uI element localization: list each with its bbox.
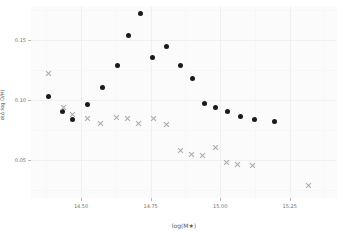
data-point-cross [60, 104, 67, 111]
gridline-major-horizontal [31, 100, 337, 101]
gridline-minor-vertical [185, 6, 186, 198]
data-point-circle [85, 102, 90, 107]
gridline-minor-vertical [255, 6, 256, 198]
data-point-cross [188, 151, 195, 158]
data-point-circle [225, 109, 230, 114]
data-point-circle [190, 76, 195, 81]
data-point-cross [124, 115, 131, 122]
gridline-major-horizontal [31, 40, 337, 41]
x-axis-title: log(M★) [31, 222, 337, 229]
x-tick-mark [290, 198, 291, 201]
data-point-cross [163, 121, 170, 128]
y-axis-title: σ(Δ log O/H) [0, 90, 5, 121]
y-tick-mark [28, 100, 31, 101]
gridline-major-vertical [220, 6, 221, 198]
scatter-plot-figure: 14.5014.7515.0015.25 0.050.100.15 log(M★… [0, 0, 344, 237]
data-point-cross [234, 161, 241, 168]
data-point-circle [213, 105, 218, 110]
data-point-cross [113, 114, 120, 121]
gridline-major-vertical [151, 6, 152, 198]
gridline-minor-vertical [46, 6, 47, 198]
data-point-circle [238, 114, 243, 119]
data-point-circle [115, 63, 120, 68]
plot-panel [31, 6, 337, 198]
x-tick-label: 15.00 [213, 203, 227, 209]
data-point-circle [138, 11, 143, 16]
x-tick-label: 15.25 [283, 203, 297, 209]
x-tick-label: 14.50 [74, 203, 88, 209]
data-point-cross [199, 152, 206, 159]
data-point-cross [249, 162, 256, 169]
gridline-major-vertical [81, 6, 82, 198]
data-point-cross [223, 159, 230, 166]
data-point-cross [84, 115, 91, 122]
y-tick-label: 0.15 [15, 37, 26, 43]
data-point-cross [45, 70, 52, 77]
x-tick-mark [220, 198, 221, 201]
gridline-major-vertical [290, 6, 291, 198]
gridline-minor-vertical [324, 6, 325, 198]
data-point-circle [164, 44, 169, 49]
gridline-minor-vertical [116, 6, 117, 198]
x-tick-label: 14.75 [143, 203, 157, 209]
y-tick-mark [28, 40, 31, 41]
data-point-cross [212, 144, 219, 151]
data-point-circle [178, 63, 183, 68]
gridline-minor-horizontal [31, 190, 337, 191]
y-tick-mark [28, 160, 31, 161]
gridline-minor-horizontal [31, 10, 337, 11]
x-tick-mark [81, 198, 82, 201]
data-point-cross [150, 115, 157, 122]
data-point-circle [126, 33, 131, 38]
data-point-circle [100, 85, 105, 90]
gridline-minor-horizontal [31, 70, 337, 71]
y-tick-label: 0.05 [15, 157, 26, 163]
gridline-minor-horizontal [31, 130, 337, 131]
data-point-circle [150, 55, 155, 60]
data-point-cross [69, 111, 76, 118]
data-point-circle [202, 101, 207, 106]
data-point-cross [97, 120, 104, 127]
data-point-circle [252, 117, 257, 122]
data-point-cross [135, 120, 142, 127]
data-point-circle [272, 119, 277, 124]
x-tick-mark [151, 198, 152, 201]
gridline-major-horizontal [31, 160, 337, 161]
data-point-cross [305, 182, 312, 189]
y-tick-label: 0.10 [15, 97, 26, 103]
data-point-cross [177, 147, 184, 154]
